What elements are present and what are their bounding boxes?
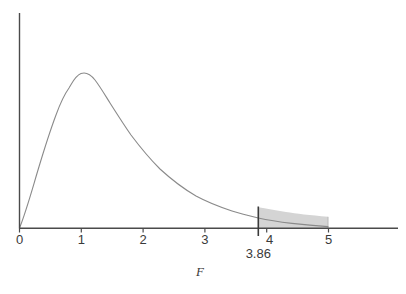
x-tick-label-3: 3 [190,232,220,247]
x-tick-label-1: 1 [66,232,96,247]
x-tick-label-4: 4 [255,232,285,247]
x-tick-label-0: 0 [5,232,35,247]
chart-canvas [0,0,406,294]
x-axis-title: F [180,264,220,279]
x-tick-label-5: 5 [314,232,344,247]
critical-value-label: 3.86 [228,246,288,261]
x-tick-label-2: 2 [128,232,158,247]
f-distribution-chart: 0 1 2 3 4 5 3.86 F [0,0,406,294]
density-curve [20,73,329,228]
rejection-region-shading [258,207,328,228]
